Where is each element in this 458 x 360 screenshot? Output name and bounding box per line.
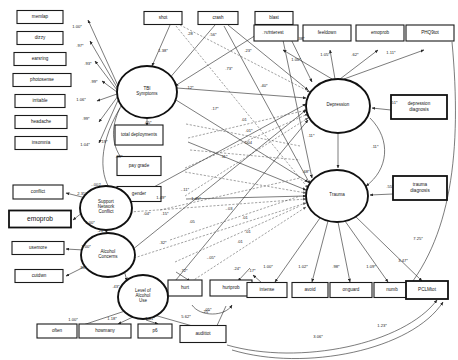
observed-variable-dizzy[interactable]: dizzy [17,32,63,45]
observed-variable-irritable[interactable]: irritable [15,95,65,108]
observed-variable-earsring[interactable]: earsring [14,53,66,66]
path-coefficient-c-often: 1.00* [68,317,78,322]
observed-variable-onguard[interactable]: onguard [330,283,372,298]
latent-variable-trauma[interactable]: Trauma [306,170,368,222]
observed-variable-cutdwn[interactable]: cutdwn [15,270,63,283]
path-coefficient-c-145: 1.45* [191,196,201,201]
observed-variable-pclmtot[interactable]: PCLMtot [406,281,448,299]
path-coefficient-c-snc-ac: .21* [97,228,105,233]
observed-variable-label: memlap [32,14,49,19]
observed-variable-conflict[interactable]: conflict [13,185,63,199]
path-coefficient-c-earsring: .93* [84,61,92,66]
path-coefficient-c-shot-tbi: 1.38* [158,48,168,53]
latent-variable-level_alcohol_use[interactable]: Level ofAlcoholUse [118,275,168,319]
diagram-canvas: memlapdizzyearsringphotosenseirritablehe… [0,0,458,360]
path-coefficient-c-interest: 1.00* [291,57,301,62]
observed-variable-emoprob_right[interactable]: emoprob [356,25,404,41]
observed-variable-label: pay grade [129,163,150,168]
path-coefficient-c-tbi-dep: .40* [260,83,268,88]
observed-variable-interest[interactable]: interest [254,25,298,41]
path-coefficient-c-17: .17* [211,106,219,111]
path-coefficient-c-trauma-diag: .55* [386,184,394,189]
observed-variable-hurtprob[interactable]: hurtprob [210,280,252,296]
observed-variable-label: numb [386,287,398,292]
observed-variable-label: headache [31,119,52,124]
observed-variable-label: earsring [32,56,49,61]
path-coefficient-c-avoid: 1.02* [298,264,308,269]
observed-variable-trauma_diagnosis[interactable]: traumadiagnosis [393,176,447,200]
path-coefficient-c-memlap: 1.00* [72,24,82,29]
path-coefficient-c-hurt-prob: .05* [204,307,212,312]
observed-variable-headache[interactable]: headache [15,116,67,129]
observed-variable-pay_grade[interactable]: pay grade [117,157,161,176]
observed-variable-blast[interactable]: blast [255,12,293,25]
latent-variable-label: Depression [327,102,350,107]
path-coefficient-c-03a: -.03 [225,206,233,211]
observed-variable-label: blast [269,15,279,20]
latent-variable-tbi_symptoms[interactable]: TBISymptoms [117,66,177,118]
observed-variable-p6[interactable]: p6 [138,324,172,338]
observed-variable-audittot[interactable]: audittot [180,326,226,343]
observed-variable-usemore[interactable]: usemore [12,242,64,255]
observed-variable-photosense[interactable]: photosense [13,74,71,87]
observed-variable-label: dizzy [35,35,46,40]
observed-variable-label: howmany [95,328,115,333]
observed-variable-label: emoprob [371,30,390,35]
path-coefficient-c-tbi-12: .12* [186,85,194,90]
observed-variable-numb[interactable]: numb [374,283,410,298]
observed-variable-shot[interactable]: shot [144,12,182,25]
path-coefficient-c-paygrade: .89* [115,154,123,159]
path-coefficient-c-dizzy: .97* [76,43,84,48]
observed-variable-label: irritable [32,98,48,103]
observed-variable-label: PCLMtot [418,287,437,292]
path-coefficient-c-dep-neg002: -.002 [91,182,101,187]
observed-variable-howmany[interactable]: howmany [79,324,131,338]
latent-variable-label: SupportNetworkConflict [98,199,115,214]
observed-variable-label: onguard [343,287,360,292]
observed-variable-hurt[interactable]: hurt [168,280,202,296]
path-coefficient-c-01a: .01 [241,117,247,122]
observed-variable-label: shot [159,15,168,20]
observed-variable-label: emoprob [27,215,53,223]
path-coefficient-c-11b: .11* [221,154,228,159]
path-coefficient-c-emoprob-l: 1.00* [85,220,95,225]
path-coefficient-c-dep-trauma: .11* [372,144,379,149]
observed-variable-feeldown[interactable]: feeldown [303,25,351,41]
observed-variable-label: crash [212,15,224,20]
observed-variable-depression_diagnosis[interactable]: depressiondiagnosis [391,95,447,119]
latent-variable-label: Trauma [329,192,345,197]
observed-variable-label: hurt [181,285,190,290]
observed-variable-insomnia[interactable]: insomnia [15,137,67,150]
observed-variable-phq9tot[interactable]: PHQ9tot [406,25,454,41]
path-coefficient-c-17b: .17* [248,268,256,273]
path-coefficient-c-01c: .01 [242,215,248,220]
path-coefficient-c-blast2: .38* [297,36,305,41]
observed-variable-total_deployments[interactable]: total deployments [115,125,163,145]
observed-variable-label: cutdwn [32,273,47,278]
observed-variable-label: often [52,328,63,333]
observed-variable-intense[interactable]: intense [247,283,287,298]
latent-variable-label: AlcoholConcerns [98,249,118,259]
observed-variable-label: photosense [30,77,54,82]
latent-variable-depression[interactable]: Depression [306,79,370,133]
path-coefficient-c-photosense: .99* [90,79,98,84]
observed-variable-crash[interactable]: crash [198,12,238,25]
observed-variable-avoid[interactable]: avoid [292,283,328,298]
path-coefficient-c-trauma-68: .68* [302,169,310,174]
observed-variable-memlap[interactable]: memlap [17,11,63,24]
path-coefficient-c-ac-lau: .43* [112,284,120,289]
observed-variable-label: hurtprob [222,285,240,290]
path-coefficient-c-phq9tot: 1.11* [386,50,396,55]
path-coefficient-c-pclmtot: 3.47* [398,258,408,263]
latent-variable-alcohol_concerns[interactable]: AlcoholConcerns [81,233,135,277]
observed-variable-emoprob_left[interactable]: emoprob [9,211,71,228]
observed-variable-label: intense [260,287,275,292]
path-coefficient-c-123: 1.23* [377,323,387,328]
path-coefficient-c-306: 3.06* [313,334,323,339]
path-coefficient-c-05: .05 [189,219,195,224]
path-coefficient-c-intense: 1.00* [263,264,273,269]
path-coefficient-c-19: .19* [100,139,108,144]
observed-variable-label: gender [132,191,147,196]
path-coefficient-c-dep-diag: .51* [390,100,398,105]
observed-variable-often[interactable]: often [37,324,77,338]
